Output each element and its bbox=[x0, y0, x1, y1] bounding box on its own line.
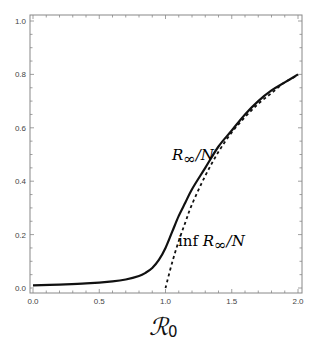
tick-label: 2.0 bbox=[292, 297, 304, 306]
tick-label: 0.0 bbox=[15, 284, 27, 293]
tick-label: 0.6 bbox=[15, 124, 27, 133]
plot-frame bbox=[30, 15, 302, 293]
tick-label: 0.8 bbox=[15, 70, 27, 79]
tick-label: 1.5 bbox=[226, 297, 238, 306]
tick-label: 0.0 bbox=[27, 297, 39, 306]
tick-label: 0.4 bbox=[15, 177, 27, 186]
tick-label: 0.2 bbox=[15, 231, 27, 240]
chart: 0.00.51.01.52.00.00.20.40.60.81.0 R∞/N i… bbox=[0, 0, 315, 346]
x-axis-label: ℛ0 bbox=[149, 313, 178, 341]
tick-label: 1.0 bbox=[15, 17, 27, 26]
tick-label: 0.5 bbox=[94, 297, 106, 306]
tick-label: 1.0 bbox=[160, 297, 172, 306]
